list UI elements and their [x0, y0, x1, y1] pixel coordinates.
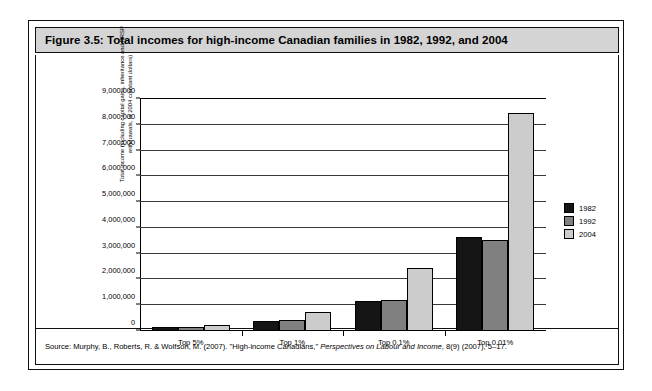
bar-group: [343, 99, 445, 331]
y-axis-tick-label: 8,000,000: [102, 111, 135, 120]
source-journal: Perspectives on Labour and Income: [320, 342, 442, 351]
source-note: Source: Murphy, B., Roberts, R. & Wolfso…: [36, 342, 507, 351]
source-prefix: Source: Murphy, B., Roberts, R. & Wolfso…: [45, 342, 320, 351]
source-suffix: , 8(9) (2007), 5–17.: [442, 342, 507, 351]
bar-2004-top-0-1[interactable]: [407, 268, 433, 331]
legend-item-2004[interactable]: 2004: [564, 229, 596, 239]
y-axis-tick-label: 9,000,000: [102, 86, 135, 95]
y-axis-tick-label: 7,000,000: [102, 137, 135, 146]
y-axis-tick-label: 0: [131, 318, 135, 327]
plot-area: 01,000,0002,000,0003,000,0004,000,0005,0…: [140, 99, 546, 331]
legend-label-2004: 2004: [579, 230, 596, 239]
bar-group: [445, 99, 547, 331]
legend-label-1982: 1982: [579, 204, 596, 213]
bar-1982-top-0-01[interactable]: [456, 237, 482, 331]
legend: 198219922004: [564, 203, 596, 239]
bar-1992-top-0-1[interactable]: [381, 300, 407, 331]
bars-layer: [140, 99, 546, 331]
figure-title-band: Figure 3.5: Total incomes for high-incom…: [35, 27, 619, 53]
bar-group: [242, 99, 344, 331]
y-axis-tick-label: 3,000,000: [102, 240, 135, 249]
legend-swatch-1982: [564, 203, 574, 213]
y-axis-tick-label: 5,000,000: [102, 189, 135, 198]
bar-group: [140, 99, 242, 331]
page-title: Figure 3.5: Total incomes for high-incom…: [36, 34, 508, 46]
y-axis-tick-label: 1,000,000: [102, 292, 135, 301]
chart-panel: Total income (including capital gains, i…: [35, 55, 619, 329]
y-axis-tick-label: 2,000,000: [102, 266, 135, 275]
bar-2004-top-0-01[interactable]: [508, 113, 534, 331]
legend-item-1992[interactable]: 1992: [564, 216, 596, 226]
legend-label-1992: 1992: [579, 217, 596, 226]
legend-item-1982[interactable]: 1982: [564, 203, 596, 213]
legend-swatch-1992: [564, 216, 574, 226]
y-axis-tick-label: 4,000,000: [102, 214, 135, 223]
legend-swatch-2004: [564, 229, 574, 239]
figure-container: Figure 3.5: Total incomes for high-incom…: [28, 20, 624, 370]
bar-1982-top-0-1[interactable]: [355, 301, 381, 331]
y-axis-tick-label: 6,000,000: [102, 163, 135, 172]
source-band: Source: Murphy, B., Roberts, R. & Wolfso…: [35, 329, 619, 365]
bar-1992-top-0-01[interactable]: [482, 240, 508, 331]
